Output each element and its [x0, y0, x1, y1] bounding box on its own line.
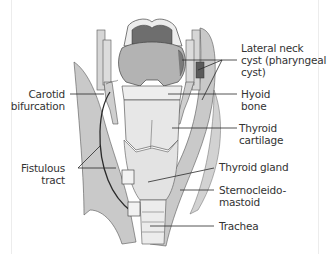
trachea — [140, 200, 166, 244]
label-thyroid-gland: Thyroid gland — [219, 161, 288, 173]
label-fistulous-tract: Fistulous tract — [21, 162, 65, 186]
label-sternocleidomastoid: Sternocleido- mastoid — [219, 184, 286, 208]
label-trachea: Trachea — [219, 220, 259, 232]
hyoid-bone — [122, 86, 182, 100]
label-carotid-bifurcation: Carotid bifurcation — [11, 88, 65, 112]
lateral-neck-cyst — [196, 62, 204, 78]
label-hyoid-bone: Hyoid bone — [241, 88, 270, 112]
label-thyroid-cartilage: Thyroid cartilage — [239, 122, 283, 146]
label-lateral-neck-cyst: Lateral neck cyst (pharyngeal cyst) — [241, 42, 326, 78]
tongue-base — [119, 42, 186, 86]
